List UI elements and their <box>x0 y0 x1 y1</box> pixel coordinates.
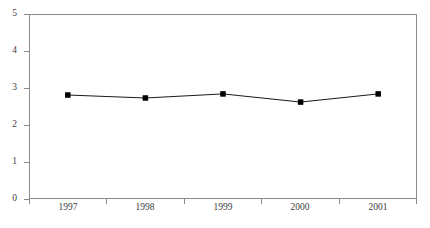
x-tick-mark-1 <box>106 199 107 204</box>
y-tick-label-5: 5 <box>1 9 17 19</box>
y-tick-label-0: 0 <box>1 194 17 204</box>
x-tick-label-1997: 1997 <box>38 203 98 213</box>
x-tick-label-2001: 2001 <box>348 203 408 213</box>
x-tick-label-1999: 1999 <box>193 203 253 213</box>
y-tick-label-2: 2 <box>1 120 17 130</box>
x-tick-mark-4 <box>339 199 340 204</box>
y-tick-mark-4 <box>24 51 29 52</box>
line-chart-figure: 5 4 3 2 1 0 1997 1998 1999 2000 2001 <box>0 0 430 228</box>
y-tick-label-1: 1 <box>1 157 17 167</box>
y-tick-mark-2 <box>24 125 29 126</box>
y-tick-label-4: 4 <box>1 46 17 56</box>
y-tick-mark-1 <box>24 162 29 163</box>
plot-area <box>29 14 417 199</box>
x-tick-mark-2 <box>184 199 185 204</box>
y-tick-mark-3 <box>24 88 29 89</box>
x-tick-mark-3 <box>261 199 262 204</box>
x-tick-label-1998: 1998 <box>115 203 175 213</box>
x-tick-mark-5 <box>416 199 417 204</box>
y-tick-mark-5 <box>24 14 29 15</box>
y-tick-label-3: 3 <box>1 83 17 93</box>
x-tick-mark-0 <box>29 199 30 204</box>
x-tick-label-2000: 2000 <box>270 203 330 213</box>
